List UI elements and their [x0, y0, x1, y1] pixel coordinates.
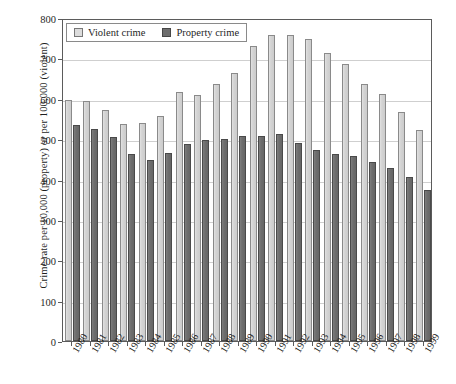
bar-violent-crime — [194, 95, 201, 341]
y-axis-tick-label: 400 — [22, 175, 56, 186]
bar-violent-crime — [176, 92, 183, 341]
bar-property-crime — [332, 154, 339, 341]
bars-layer — [63, 20, 431, 341]
bar-violent-crime — [250, 46, 257, 341]
bar-property-crime — [258, 136, 265, 341]
bar-property-crime — [387, 168, 394, 341]
y-axis-tick-label: 200 — [22, 256, 56, 267]
y-axis-tick-label: 100 — [22, 296, 56, 307]
legend-item: Property crime — [162, 27, 239, 38]
property-crime-swatch-icon — [162, 28, 171, 37]
crime-rate-bar-chart: Crime rate per 10,000 (property) or per … — [0, 0, 456, 384]
bar-violent-crime — [268, 35, 275, 341]
bar-violent-crime — [361, 84, 368, 341]
bar-property-crime — [406, 177, 413, 341]
y-axis-tick-mark — [58, 342, 62, 343]
bar-violent-crime — [305, 39, 312, 341]
bar-violent-crime — [398, 112, 405, 341]
bar-violent-crime — [416, 130, 423, 341]
y-axis-tick-label: 0 — [22, 337, 56, 348]
bar-violent-crime — [139, 123, 146, 341]
bar-property-crime — [276, 134, 283, 341]
bar-property-crime — [73, 125, 80, 341]
bar-violent-crime — [83, 101, 90, 341]
bar-property-crime — [313, 150, 320, 341]
bar-property-crime — [147, 160, 154, 341]
bar-violent-crime — [231, 73, 238, 341]
y-axis-tick-label: 500 — [22, 135, 56, 146]
bar-violent-crime — [379, 94, 386, 341]
legend-item-label: Violent crime — [88, 27, 145, 38]
y-axis-tick-label: 800 — [22, 14, 56, 25]
bar-property-crime — [350, 156, 357, 341]
y-axis-tick-label: 600 — [22, 94, 56, 105]
bar-property-crime — [128, 154, 135, 341]
plot-area — [62, 19, 432, 342]
bar-violent-crime — [342, 64, 349, 341]
bar-violent-crime — [157, 116, 164, 341]
bar-property-crime — [424, 190, 431, 341]
y-axis-tick-label: 300 — [22, 215, 56, 226]
bar-property-crime — [202, 140, 209, 341]
bar-property-crime — [110, 137, 117, 341]
bar-property-crime — [369, 162, 376, 341]
bar-violent-crime — [287, 35, 294, 341]
bar-violent-crime — [213, 84, 220, 341]
y-axis-tick-label: 700 — [22, 54, 56, 65]
bar-property-crime — [221, 139, 228, 341]
violent-crime-swatch-icon — [74, 28, 83, 37]
bar-violent-crime — [324, 53, 331, 341]
bar-violent-crime — [102, 110, 109, 341]
bar-violent-crime — [120, 124, 127, 341]
legend-item-label: Property crime — [176, 27, 239, 38]
bar-violent-crime — [65, 100, 72, 341]
chart-legend: Violent crimeProperty crime — [66, 23, 247, 42]
bar-property-crime — [165, 153, 172, 341]
bar-property-crime — [295, 143, 302, 341]
bar-property-crime — [91, 129, 98, 341]
bar-property-crime — [184, 144, 191, 341]
bar-property-crime — [239, 136, 246, 341]
legend-item: Violent crime — [74, 27, 145, 38]
